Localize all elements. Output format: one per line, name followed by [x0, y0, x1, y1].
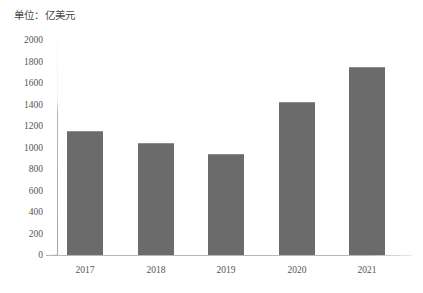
bar-2020[interactable] — [279, 102, 315, 255]
bar-chart: 单位：亿美元 2000 1800 1600 1400 1200 1000 800… — [0, 0, 423, 293]
y-axis-tick-label: 1000 — [24, 142, 43, 153]
y-axis-tick-label: 800 — [29, 164, 43, 175]
y-axis-tick-label: 1800 — [24, 56, 43, 67]
y-axis-tick-label: 0 — [38, 250, 43, 261]
x-axis-line — [46, 255, 412, 256]
y-axis-tick-labels: 2000 1800 1600 1400 1200 1000 800 600 40… — [0, 0, 43, 293]
x-axis-tick-label-2021: 2021 — [358, 264, 377, 276]
y-axis-tick-label: 1200 — [24, 121, 43, 132]
x-axis-tick-label-2017: 2017 — [76, 264, 95, 276]
y-axis-tick-label: 2000 — [24, 35, 43, 46]
bar-2019[interactable] — [208, 154, 244, 255]
y-axis-tick-label: 1400 — [24, 99, 43, 110]
bar-2018[interactable] — [138, 143, 174, 255]
plot-area — [57, 40, 412, 255]
bar-2021[interactable] — [349, 67, 385, 255]
y-axis-tick-label: 400 — [29, 207, 43, 218]
bar-2017[interactable] — [67, 131, 103, 255]
x-axis-tick-label-2018: 2018 — [147, 264, 166, 276]
x-axis-tick-label-2020: 2020 — [288, 264, 307, 276]
x-axis-tick-label-2019: 2019 — [217, 264, 236, 276]
y-axis-tick-label: 200 — [29, 228, 43, 239]
y-axis-tick-label: 600 — [29, 185, 43, 196]
y-axis-tick-label: 1600 — [24, 78, 43, 89]
